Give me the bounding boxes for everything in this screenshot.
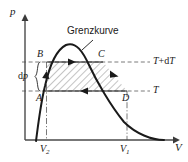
cycle-point-label-c: C bbox=[98, 49, 105, 59]
isotherm-lower-t: T bbox=[153, 84, 159, 95]
volume-tick-label-v2: V2 bbox=[40, 144, 50, 154]
volume-axis-label: V bbox=[175, 142, 182, 153]
volume-tick-label-v1: V1 bbox=[120, 144, 130, 154]
pressure-axis-label: p bbox=[10, 6, 16, 17]
dp-p: p bbox=[23, 70, 28, 81]
isotherm-upper-dt: dT bbox=[164, 55, 175, 66]
isotherm-upper-dt-t: T bbox=[169, 55, 175, 66]
pressure-difference-label: dp bbox=[18, 71, 28, 81]
v2-sub: 2 bbox=[46, 148, 50, 156]
isotherm-lower-label: T bbox=[153, 85, 159, 95]
pv-diagram-figure: p V Grenzkurve B C A D T+dT T dp V2 V1 bbox=[0, 0, 188, 162]
cycle-point-label-a: A bbox=[36, 93, 42, 103]
dp-brace bbox=[35, 62, 40, 91]
v1-sub: 1 bbox=[126, 148, 130, 156]
grenzkurve-leader-line bbox=[82, 40, 93, 50]
isotherm-upper-label: T+dT bbox=[153, 56, 175, 66]
grenzkurve-label: Grenzkurve bbox=[67, 26, 119, 36]
cycle-point-label-d: D bbox=[122, 93, 129, 103]
cycle-point-label-b: B bbox=[37, 49, 43, 59]
cycle-arrow-c-to-d bbox=[110, 70, 119, 77]
